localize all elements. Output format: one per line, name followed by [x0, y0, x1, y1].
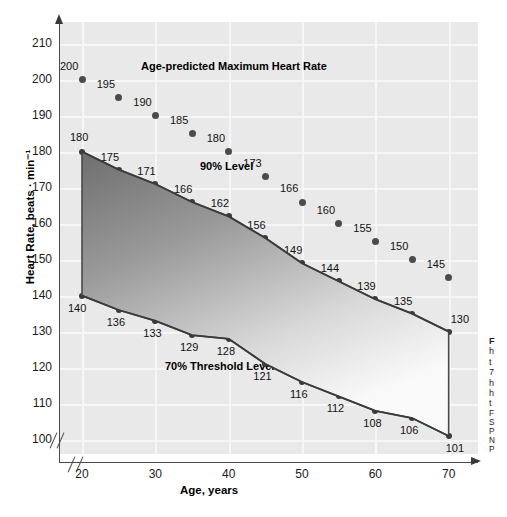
chart-svg	[0, 0, 507, 517]
chart-figure: 100110120130140150160170180190200210 203…	[0, 0, 507, 517]
training-sensitive-zone-region	[82, 152, 449, 436]
